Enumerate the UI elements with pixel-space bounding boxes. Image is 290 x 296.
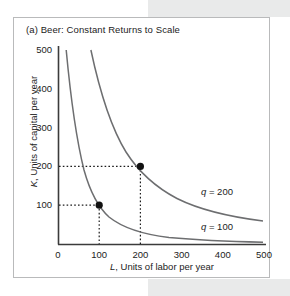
curve-label-q100: q = 100 bbox=[201, 221, 233, 232]
figure-frame: (a) Beer: Constant Returns to Scale 500 … bbox=[13, 17, 270, 278]
y-axis-label-symbol: K bbox=[28, 181, 39, 187]
isoquant-curve-q100 bbox=[66, 50, 263, 242]
data-point-q200 bbox=[137, 163, 144, 170]
xtick-label-500: 500 bbox=[249, 249, 279, 260]
xtick-label-100: 100 bbox=[84, 249, 114, 260]
isoquant-curve-q200 bbox=[91, 50, 263, 221]
page-background-bottom bbox=[148, 279, 290, 296]
y-axis-label: K, Units of capital per year bbox=[28, 52, 39, 212]
curve-label-q200: q = 200 bbox=[201, 186, 233, 197]
xtick-label-400: 400 bbox=[208, 249, 238, 260]
data-point-q100 bbox=[96, 202, 103, 209]
xtick-label-0: 0 bbox=[43, 249, 73, 260]
xtick-label-300: 300 bbox=[167, 249, 197, 260]
curve-label-q200-text: = 200 bbox=[206, 186, 233, 197]
x-axis-label: L, Units of labor per year bbox=[110, 261, 214, 272]
plot-area bbox=[14, 18, 271, 279]
y-axis-label-text: , Units of capital per year bbox=[28, 76, 39, 181]
page-background-top bbox=[148, 0, 290, 17]
curve-label-q100-text: = 100 bbox=[206, 221, 233, 232]
xtick-label-200: 200 bbox=[125, 249, 155, 260]
x-axis-label-text: , Units of labor per year bbox=[115, 261, 214, 272]
